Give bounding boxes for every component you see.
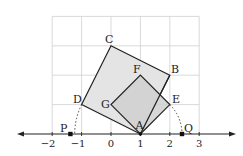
arrow-right-icon	[229, 132, 236, 137]
tick-label: 2	[167, 138, 173, 149]
label-p: P	[60, 122, 68, 135]
tick-label: 0	[108, 138, 114, 149]
label-q: Q	[184, 122, 193, 135]
arc-d-to-p	[75, 105, 82, 134]
tick-label: −1	[71, 138, 86, 149]
label-a: A	[135, 119, 145, 132]
geometry-figure: −2 −1 0 1 2 3 A B C D E F G P Q	[0, 0, 243, 156]
tick-label: −2	[41, 138, 56, 149]
label-g: G	[101, 98, 110, 111]
number-line: −2 −1 0 1 2 3	[17, 132, 236, 150]
label-c: C	[105, 33, 113, 46]
label-f: F	[133, 63, 141, 76]
tick-label: 1	[137, 138, 143, 149]
tick-label: 3	[196, 138, 202, 149]
label-d: D	[73, 93, 82, 106]
arc-e-to-q	[170, 105, 182, 134]
label-e: E	[172, 93, 180, 106]
label-b: B	[171, 63, 179, 76]
point-a	[139, 132, 143, 136]
arrow-left-icon	[17, 132, 24, 137]
point-p	[68, 132, 72, 136]
